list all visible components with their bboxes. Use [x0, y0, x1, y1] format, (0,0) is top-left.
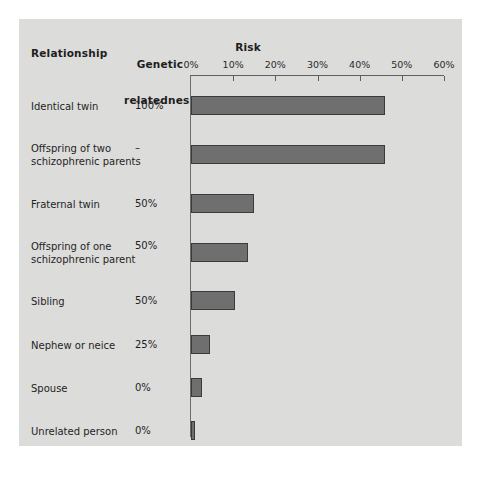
- figure-canvas: Relationship Genetic relatedness Risk 0%…: [0, 0, 484, 477]
- x-tick-label: 60%: [433, 59, 454, 70]
- row-value-genetic-relatedness: 0%: [135, 382, 181, 393]
- risk-bar: [191, 291, 235, 310]
- risk-bar: [191, 378, 202, 397]
- risk-bar: [191, 96, 385, 115]
- row-value-genetic-relatedness: 25%: [135, 339, 181, 350]
- chart-panel: Relationship Genetic relatedness Risk 0%…: [19, 19, 462, 446]
- row-value-genetic-relatedness: 50%: [135, 240, 181, 251]
- row-value-genetic-relatedness: 50%: [135, 198, 181, 209]
- row-value-genetic-relatedness: –: [135, 142, 181, 153]
- row-value-genetic-relatedness: 0%: [135, 425, 181, 436]
- risk-bar: [191, 335, 210, 354]
- column-header-relationship: Relationship: [31, 47, 107, 59]
- risk-bar: [191, 421, 195, 440]
- row-value-genetic-relatedness: 100%: [135, 100, 181, 111]
- x-tick-mark: [233, 76, 234, 81]
- risk-bar: [191, 243, 248, 262]
- column-header-risk: Risk: [187, 41, 309, 53]
- x-tick-mark: [275, 76, 276, 81]
- x-tick-label: 20%: [265, 59, 286, 70]
- risk-bar: [191, 145, 385, 164]
- x-tick-label: 10%: [223, 59, 244, 70]
- x-tick-label: 50%: [391, 59, 412, 70]
- x-tick-label: 40%: [349, 59, 370, 70]
- x-tick-label: 30%: [307, 59, 328, 70]
- risk-bar: [191, 194, 254, 213]
- row-value-genetic-relatedness: 50%: [135, 295, 181, 306]
- x-tick-mark: [444, 76, 445, 81]
- x-tick-mark: [360, 76, 361, 81]
- x-tick-mark: [402, 76, 403, 81]
- x-axis-line: [190, 75, 444, 76]
- x-tick-mark: [318, 76, 319, 81]
- column-header-genetic-relatedness-line1: Genetic: [115, 58, 205, 70]
